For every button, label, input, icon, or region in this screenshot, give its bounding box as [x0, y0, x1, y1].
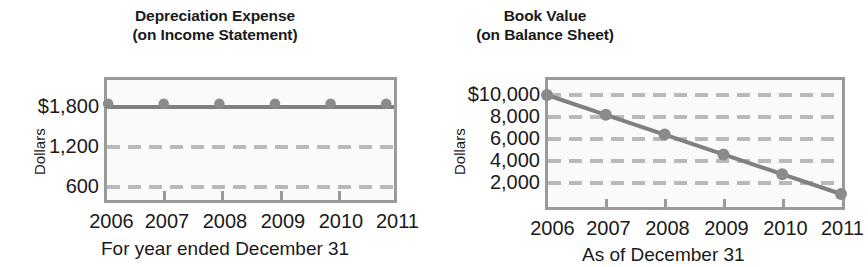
- data-point-2007: [159, 99, 169, 109]
- chart-title-line1: Book Value: [504, 7, 587, 24]
- data-point-2008: [214, 99, 224, 109]
- y-tick-label-600: 600: [0, 176, 99, 196]
- series-line-book-value: [547, 95, 841, 194]
- data-point-2009: [717, 148, 729, 160]
- series-markers-depreciation: [107, 80, 394, 200]
- x-tickmark-1-right: [605, 199, 608, 210]
- x-tick-label-2008: 2008: [196, 211, 254, 232]
- x-tick-label-2006: 2006: [526, 218, 579, 239]
- chart-title-book-value: Book Value (on Balance Sheet): [265, 6, 825, 44]
- x-tickmark-4-right: [782, 199, 785, 210]
- x-tick-label-2011: 2011: [370, 211, 425, 232]
- data-point-2007: [600, 109, 612, 121]
- x-tickmark-1-left: [163, 191, 166, 203]
- data-point-2011: [381, 99, 391, 109]
- x-tick-label-2007: 2007: [138, 211, 196, 232]
- x-tick-label-2007: 2007: [579, 218, 638, 239]
- y-tick-label-6000: 6,000: [430, 128, 540, 148]
- plot-area-book-value: [545, 77, 845, 210]
- x-tick-label-2008: 2008: [638, 218, 697, 239]
- y-tick-label-1200: 1,200: [0, 136, 99, 156]
- x-tickmark-3-right: [723, 199, 726, 210]
- y-tick-label-10000: $10,000: [430, 84, 540, 104]
- y-tick-label-1800: $1,800: [0, 96, 99, 116]
- data-point-2010: [325, 99, 335, 109]
- x-axis-tick-labels-right: 200620072008200920102011: [526, 218, 868, 239]
- x-tick-label-2010: 2010: [312, 211, 370, 232]
- x-tick-label-2009: 2009: [254, 211, 312, 232]
- data-point-2006: [541, 89, 553, 101]
- y-tick-label-2000: 2,000: [430, 172, 540, 192]
- y-tick-label-8000: 8,000: [430, 106, 540, 126]
- x-tick-label-2010: 2010: [756, 218, 815, 239]
- data-point-2010: [776, 168, 788, 180]
- data-point-2011: [835, 188, 847, 200]
- data-point-2008: [659, 129, 671, 141]
- x-tick-label-2009: 2009: [697, 218, 756, 239]
- x-tick-label-2011: 2011: [815, 218, 868, 239]
- data-point-2009: [270, 99, 280, 109]
- x-tick-label-2006: 2006: [85, 211, 138, 232]
- data-point-2006: [103, 99, 113, 109]
- x-tickmark-2-left: [221, 191, 224, 203]
- series-book-value: [548, 80, 842, 207]
- chart-title-line2: (on Balance Sheet): [265, 25, 825, 44]
- x-axis-tick-labels-left: 200620072008200920102011: [85, 211, 425, 232]
- x-axis-caption-left: For year ended December 31: [101, 239, 349, 259]
- x-tickmark-4-left: [338, 191, 341, 203]
- chart-panel-book-value: Book Value (on Balance Sheet) Dollars $1…: [430, 0, 860, 267]
- x-tickmark-2-right: [664, 199, 667, 210]
- plot-area-depreciation-expense: [104, 77, 397, 203]
- x-axis-caption-right: As of December 31: [582, 245, 745, 265]
- x-tickmark-3-left: [280, 191, 283, 203]
- y-tick-label-4000: 4,000: [430, 150, 540, 170]
